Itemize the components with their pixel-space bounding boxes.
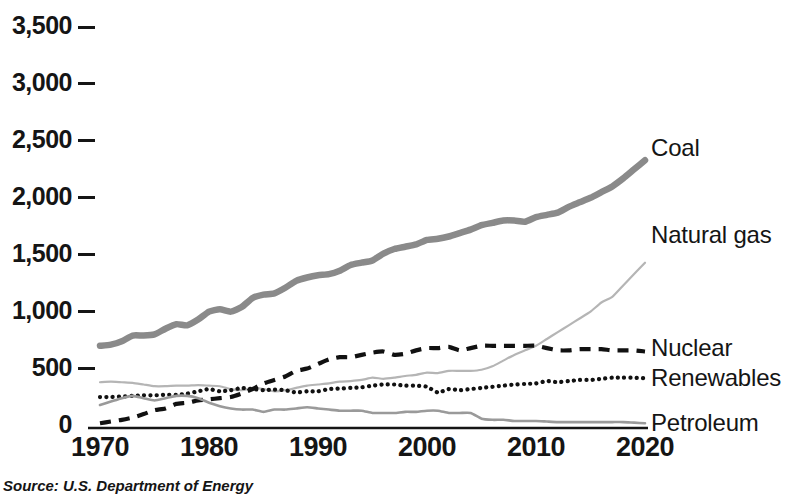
y-axis-tick-label: 2,500	[0, 125, 72, 154]
series-label-petroleum: Petroleum	[651, 409, 759, 437]
y-axis-tick-mark	[78, 82, 95, 85]
series-label-nuclear: Nuclear	[651, 334, 732, 362]
y-axis-tick-mark	[78, 26, 95, 29]
x-axis-tick-label: 1980	[167, 432, 251, 463]
series-label-coal: Coal	[651, 134, 700, 162]
series-label-natural-gas: Natural gas	[651, 221, 772, 249]
y-axis-tick-label: 3,000	[0, 68, 72, 97]
y-axis-tick-mark	[78, 253, 95, 256]
x-axis-tick-label: 2000	[385, 432, 469, 463]
x-axis-tick-label: 1990	[276, 432, 360, 463]
y-axis-tick-label: 1,000	[0, 296, 72, 325]
series-line-petroleum	[100, 396, 645, 423]
x-axis-tick-label: 2010	[494, 432, 578, 463]
source-note: Source: U.S. Department of Energy	[3, 477, 253, 494]
y-axis-tick-label: 2,000	[0, 182, 72, 211]
x-axis-tick-label: 1970	[58, 432, 142, 463]
y-axis-tick-label: 3,500	[0, 11, 72, 40]
y-axis-tick-mark	[78, 139, 95, 142]
series-line-nuclear	[100, 346, 645, 424]
energy-consumption-chart: 3,5003,0002,5002,0001,5001,0005000 19701…	[0, 0, 791, 504]
y-axis-tick-label: 1,500	[0, 239, 72, 268]
y-axis-tick-label: 500	[0, 353, 72, 382]
series-line-renewables	[100, 378, 645, 397]
y-axis-tick-mark	[78, 196, 95, 199]
y-axis-tick-mark	[78, 310, 95, 313]
series-line-coal	[100, 160, 645, 346]
series-label-renewables: Renewables	[651, 364, 781, 392]
y-axis-tick-mark	[78, 367, 95, 370]
